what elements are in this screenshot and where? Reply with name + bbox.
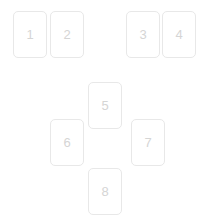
- card-label: 8: [101, 185, 108, 198]
- card-2[interactable]: 2: [50, 11, 84, 58]
- card-label: 2: [63, 28, 70, 41]
- card-label: 3: [139, 28, 146, 41]
- card-label: 7: [144, 136, 151, 149]
- card-8[interactable]: 8: [88, 168, 122, 215]
- card-6[interactable]: 6: [50, 119, 84, 166]
- card-board: 12345678: [0, 0, 208, 222]
- card-5[interactable]: 5: [88, 82, 122, 129]
- card-label: 5: [101, 99, 108, 112]
- card-4[interactable]: 4: [162, 11, 196, 58]
- card-7[interactable]: 7: [131, 119, 165, 166]
- card-label: 1: [26, 28, 33, 41]
- card-label: 4: [175, 28, 182, 41]
- card-label: 6: [63, 136, 70, 149]
- card-3[interactable]: 3: [126, 11, 160, 58]
- card-1[interactable]: 1: [13, 11, 47, 58]
